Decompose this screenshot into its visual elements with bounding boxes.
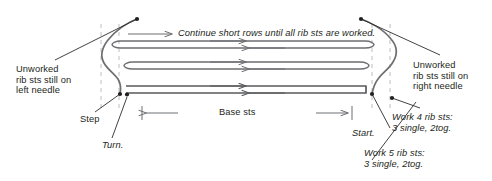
label-continue-short-rows: Continue short rows until all rib sts ar… bbox=[178, 28, 375, 39]
base-row-loop bbox=[126, 86, 366, 93]
label-work-5-rib-sts: Work 5 rib sts: 3 single, 2tog. bbox=[364, 148, 425, 169]
label-turn: Turn. bbox=[102, 140, 123, 151]
short-row-loop-1 bbox=[121, 41, 374, 48]
label-start: Start. bbox=[352, 128, 375, 139]
label-unworked-left-needle: Unworked rib sts still on left needle bbox=[16, 64, 71, 96]
label-base-sts: Base sts bbox=[219, 107, 255, 118]
base-row-direction-arrows bbox=[210, 86, 285, 93]
row-direction-arrows bbox=[210, 41, 285, 69]
label-work-4-rib-sts: Work 4 rib sts: 3 single, 2tog. bbox=[392, 112, 453, 133]
left-turn-caps bbox=[112, 41, 133, 69]
label-step: Step bbox=[80, 114, 100, 125]
short-row-loop-2 bbox=[133, 62, 369, 69]
label-unworked-right-needle: Unworked rib sts still on right needle bbox=[413, 60, 468, 92]
diagram-canvas: Unworked rib sts still on left needle Un… bbox=[0, 0, 492, 181]
leader-lines bbox=[55, 19, 440, 160]
